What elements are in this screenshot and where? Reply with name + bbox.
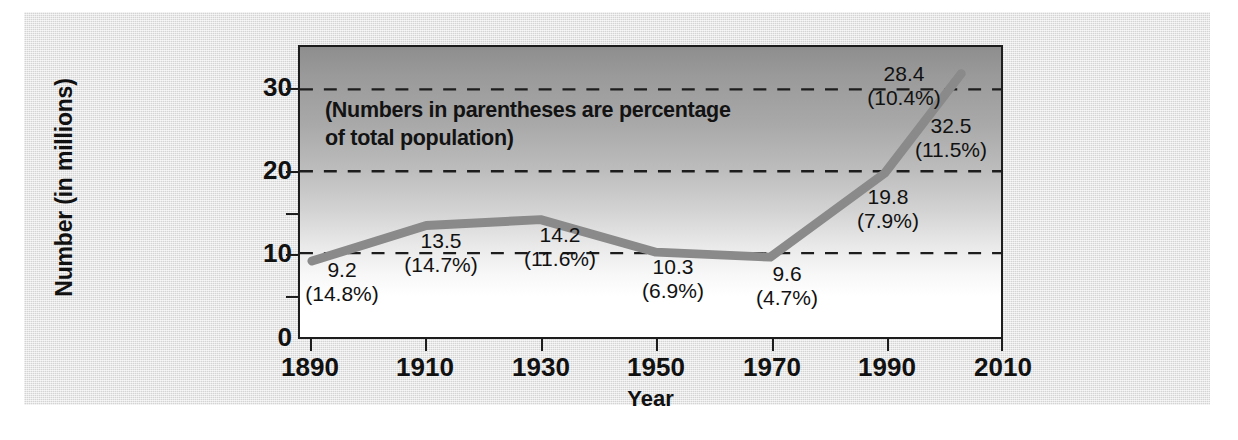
x-tick-mark-1970 — [772, 339, 774, 351]
x-axis-title: Year — [298, 386, 1003, 412]
data-percent-1970: (4.7%) — [741, 286, 833, 310]
data-percent-1910: (14.7%) — [393, 253, 489, 277]
annotation-line-1: (Numbers in parentheses are percentage — [325, 98, 731, 122]
x-tick-label-1910: 1910 — [370, 352, 480, 383]
data-value-2002: 32.5 — [900, 114, 1002, 138]
data-value-1970: 9.6 — [741, 262, 833, 286]
x-tick-label-1890: 1890 — [255, 352, 365, 383]
x-tick-mark-1950 — [656, 339, 658, 351]
x-tick-mark-1990 — [887, 339, 889, 351]
data-label-1950: 10.3 (6.9%) — [627, 255, 719, 303]
data-percent-2002: (11.5%) — [900, 138, 1002, 162]
data-label-1970: 9.6 (4.7%) — [741, 262, 833, 310]
data-percent-1890: (14.8%) — [305, 282, 379, 306]
data-value-1910: 13.5 — [393, 229, 489, 253]
data-label-1890: 9.2 (14.8%) — [305, 258, 379, 306]
x-tick-label-1970: 1970 — [717, 352, 827, 383]
data-value-1930: 14.2 — [512, 223, 608, 247]
x-tick-label-1990: 1990 — [832, 352, 942, 383]
y-tick-label-30: 30 — [222, 74, 292, 100]
y-tick-label-20: 20 — [222, 157, 292, 183]
data-value-1890: 9.2 — [305, 258, 379, 282]
y-tick-label-0: 0 — [222, 324, 292, 350]
annotation-line-2: of total population) — [325, 126, 514, 150]
x-tick-label-2010: 2010 — [948, 352, 1058, 383]
data-label-2002: 32.5 (11.5%) — [900, 114, 1002, 162]
data-percent-1930: (11.6%) — [512, 247, 608, 271]
data-label-1930: 14.2 (11.6%) — [512, 223, 608, 271]
data-percent-1990: (7.9%) — [842, 209, 934, 233]
y-axis-title: Number (in millions) — [51, 28, 78, 348]
x-tick-mark-1930 — [541, 339, 543, 351]
y-tick-label-10: 10 — [222, 240, 292, 266]
x-tick-mark-1890 — [310, 339, 312, 351]
chart-figure: Number (in millions) 30 20 10 0 (Numbers… — [0, 0, 1238, 440]
x-tick-mark-1910 — [425, 339, 427, 351]
data-label-peak-28: 28.4 (10.4%) — [855, 62, 953, 110]
data-label-1910: 13.5 (14.7%) — [393, 229, 489, 277]
data-value-1990: 19.8 — [842, 185, 934, 209]
data-percent-28: (10.4%) — [855, 86, 953, 110]
data-label-1990: 19.8 (7.9%) — [842, 185, 934, 233]
data-value-1950: 10.3 — [627, 255, 719, 279]
x-tick-label-1930: 1930 — [486, 352, 596, 383]
data-value-28: 28.4 — [855, 62, 953, 86]
x-tick-label-1950: 1950 — [601, 352, 711, 383]
chart-annotation: (Numbers in parentheses are percentage o… — [325, 97, 731, 152]
data-percent-1950: (6.9%) — [627, 279, 719, 303]
x-tick-mark-2010 — [1001, 339, 1003, 351]
